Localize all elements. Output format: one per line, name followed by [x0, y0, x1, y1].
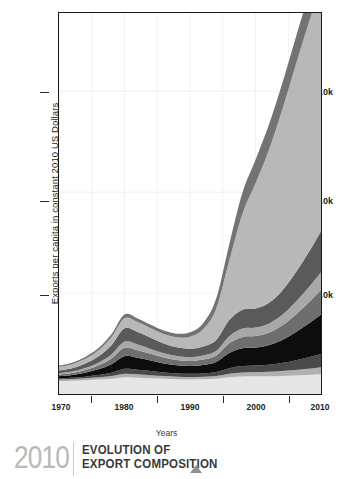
x-tick-label-1980: 1980 — [104, 402, 144, 412]
stacked-area-plot — [59, 13, 321, 394]
x-tick-label-1970: 1970 — [41, 402, 81, 412]
y-tick-mark-2k — [40, 295, 49, 296]
x-tick-label-2000: 2000 — [236, 402, 276, 412]
x-tick-mark-1995 — [223, 396, 224, 403]
x-tick-mark-2005 — [289, 396, 290, 403]
y-tick-mark-6k — [40, 92, 49, 93]
plot-area — [58, 12, 322, 395]
x-tick-label-1990: 1990 — [170, 402, 210, 412]
caption-divider — [73, 442, 74, 476]
caption-year: 2010 — [14, 439, 69, 476]
x-tick-mark-1985 — [157, 396, 158, 403]
figure-caption: 2010 EVOLUTION OF EXPORT COMPOSITION — [0, 441, 333, 479]
triangle-up-icon — [190, 465, 202, 473]
caption-title-line1: EVOLUTION OF — [82, 443, 218, 457]
x-tick-label-2010: 2010 — [300, 402, 338, 412]
x-tick-mark-1975 — [91, 396, 92, 403]
x-axis-title: Years — [0, 428, 333, 438]
y-tick-mark-4k — [40, 201, 49, 202]
